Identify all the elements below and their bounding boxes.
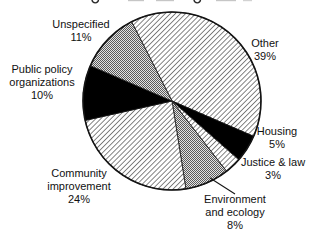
slice-label-pct: 11%	[31, 31, 131, 44]
slice-label-pct: 8%	[194, 219, 276, 232]
slice-label-other: Other 39%	[236, 37, 294, 63]
slice-label-text: Housing	[247, 125, 307, 138]
slice-label-text: Environment	[194, 193, 276, 206]
slice-label-justice-law: Justice & law 3%	[233, 156, 313, 182]
slice-label-text: Justice & law	[233, 156, 313, 169]
leader-line-environment	[210, 178, 235, 194]
slice-label-public-policy: Public policy organizations 10%	[0, 63, 84, 102]
slice-label-housing: Housing 5%	[247, 125, 307, 151]
slice-label-text: Community	[37, 167, 121, 180]
cropped-title-fragment	[92, 0, 252, 3]
slice-label-text: Other	[236, 37, 294, 50]
slice-label-community: Community improvement 24%	[37, 167, 121, 206]
slice-label-pct: 39%	[236, 50, 294, 63]
slice-label-pct: 3%	[233, 169, 313, 182]
slice-label-pct: 10%	[0, 89, 84, 102]
slice-label-text: Public policy	[0, 63, 84, 76]
slice-label-environment: Environment and ecology 8%	[194, 193, 276, 232]
pie-chart-figure: Unspecified 11% Other 39% Public policy …	[0, 0, 314, 243]
slice-label-text: organizations	[0, 76, 84, 89]
slice-label-text: Unspecified	[31, 18, 131, 31]
slice-label-pct: 5%	[247, 138, 307, 151]
slice-label-unspecified: Unspecified 11%	[31, 18, 131, 44]
slice-label-text: improvement	[37, 180, 121, 193]
slice-label-text: and ecology	[194, 206, 276, 219]
slice-label-pct: 24%	[37, 193, 121, 206]
